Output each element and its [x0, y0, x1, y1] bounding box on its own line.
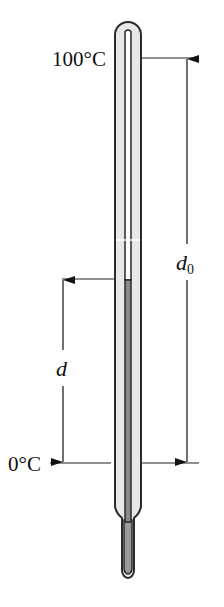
thermometer-diagram: 100°C 0°C d0 d	[0, 0, 224, 607]
bulb-outline	[124, 520, 132, 574]
label-d0-subscript: 0	[187, 262, 194, 277]
label-d: d	[56, 356, 68, 381]
label-d0: d0	[176, 250, 194, 277]
label-100c: 100°C	[52, 47, 106, 71]
capillary-empty	[125, 30, 131, 280]
thermometer	[115, 22, 141, 578]
liquid-column	[125, 280, 131, 522]
label-0c: 0°C	[8, 452, 41, 476]
